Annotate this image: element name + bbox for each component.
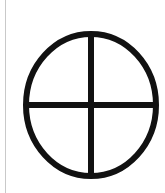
sun-cross-symbol: Sun cross / Earth symbol A black circle … <box>0 0 165 193</box>
figure-canvas: Sun cross / Earth symbol A black circle … <box>0 0 165 193</box>
